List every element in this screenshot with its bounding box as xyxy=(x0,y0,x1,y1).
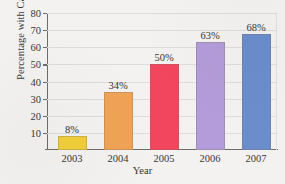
bar-value-label: 63% xyxy=(200,30,219,41)
x-axis-tick-label: 2006 xyxy=(200,153,221,164)
x-axis-tick-label: 2003 xyxy=(62,153,83,164)
y-axis-tick-label: 70 xyxy=(31,25,42,36)
y-axis-tick xyxy=(43,64,47,65)
bar-chart-figure: Percentage with Cameras 1020304050607080… xyxy=(0,0,285,184)
bar-value-label: 34% xyxy=(108,80,127,91)
gridline xyxy=(47,13,277,14)
bar-value-label: 8% xyxy=(65,124,79,135)
y-axis-title: Percentage with Cameras xyxy=(15,0,26,96)
x-axis-tick-label: 2007 xyxy=(246,153,267,164)
y-axis-tick xyxy=(43,99,47,100)
bar: 50% xyxy=(150,64,179,150)
x-axis-tick-label: 2005 xyxy=(154,153,175,164)
y-axis-tick xyxy=(43,133,47,134)
y-axis-tick-label: 80 xyxy=(31,8,42,19)
y-axis-tick-label: 10 xyxy=(31,127,42,138)
y-axis-tick-label: 20 xyxy=(31,110,42,121)
y-axis-tick xyxy=(43,116,47,117)
bar: 34% xyxy=(104,92,133,150)
bar-value-label: 68% xyxy=(246,22,265,33)
plot-area: 1020304050607080 8%34%50%63%68% 20032004… xyxy=(47,13,277,150)
y-axis-tick xyxy=(43,13,47,14)
gridline xyxy=(47,30,277,31)
bar: 8% xyxy=(58,136,87,150)
x-axis-tick-label: 2004 xyxy=(108,153,129,164)
y-axis-tick-label: 30 xyxy=(31,93,42,104)
bar: 63% xyxy=(196,42,225,150)
y-axis-tick-label: 40 xyxy=(31,76,42,87)
x-axis-title: Year xyxy=(0,165,285,176)
bar: 68% xyxy=(242,34,271,150)
y-axis-tick xyxy=(43,82,47,83)
y-axis-tick-label: 50 xyxy=(31,59,42,70)
y-axis-tick-label: 60 xyxy=(31,42,42,53)
bar-value-label: 50% xyxy=(154,52,173,63)
y-axis-tick xyxy=(43,47,47,48)
y-axis-tick xyxy=(43,30,47,31)
